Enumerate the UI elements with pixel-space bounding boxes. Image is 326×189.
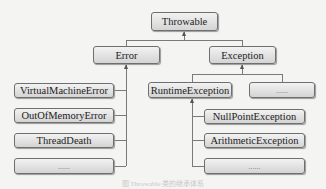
connector xyxy=(114,115,126,116)
connector xyxy=(192,98,193,166)
node-out-of-memory-error: OutOfMemoryError xyxy=(14,108,114,123)
arrow-icon xyxy=(182,31,186,36)
node-throwable: Throwable xyxy=(151,12,218,31)
connector xyxy=(126,40,243,41)
connector xyxy=(114,90,126,91)
connector xyxy=(114,166,126,167)
connector xyxy=(282,74,283,82)
arrow-icon xyxy=(124,64,128,69)
connector xyxy=(192,140,204,141)
arrow-icon xyxy=(190,98,194,103)
connector xyxy=(192,116,204,117)
node-exception-more: ...... xyxy=(249,82,315,98)
node-error: Error xyxy=(93,46,160,64)
node-runtime-more: ...... xyxy=(204,158,305,174)
connector xyxy=(192,74,283,75)
arrow-icon xyxy=(240,64,244,69)
node-runtime-exception: RuntimeException xyxy=(148,82,232,98)
node-exception: Exception xyxy=(209,46,276,64)
connector xyxy=(114,140,126,141)
node-arithmetic-exception: ArithmeticException xyxy=(204,133,305,148)
connector xyxy=(126,64,127,166)
node-error-more: ...... xyxy=(14,158,114,174)
node-null-point-exception: NullPointException xyxy=(204,109,305,124)
node-virtual-machine-error: VirtualMachineError xyxy=(14,83,114,98)
connector xyxy=(192,74,193,82)
node-thread-death: ThreadDeath xyxy=(14,133,114,148)
connector xyxy=(192,166,204,167)
figure-caption: 图 Throwable 类的继承体系 xyxy=(0,178,326,188)
